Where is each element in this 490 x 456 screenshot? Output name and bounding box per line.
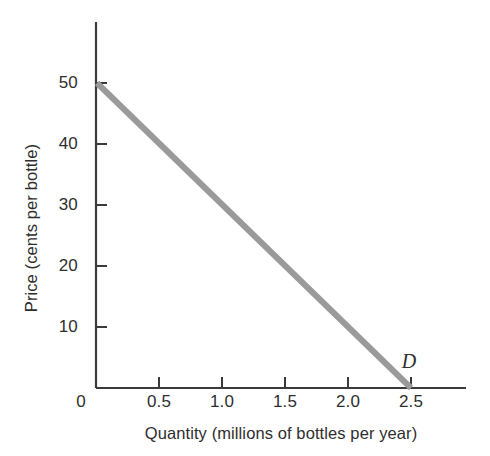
y-tick-label-10: 10 bbox=[40, 317, 78, 337]
x-tick-label-1p0: 1.0 bbox=[210, 392, 234, 412]
origin-label-0: 0 bbox=[76, 392, 86, 412]
y-tick-label-50: 50 bbox=[40, 73, 78, 93]
demand-curve-label: D bbox=[402, 350, 416, 373]
demand-curve-line bbox=[97, 83, 411, 388]
x-tick-label-1p5: 1.5 bbox=[273, 392, 297, 412]
x-axis-ticks bbox=[159, 377, 411, 388]
x-tick-label-2p0: 2.0 bbox=[336, 392, 360, 412]
demand-curve-chart: 50 40 30 20 10 0 0.5 1.0 1.5 2.0 2.5 Pri… bbox=[0, 0, 490, 456]
x-tick-label-0p5: 0.5 bbox=[147, 392, 171, 412]
x-axis-title: Quantity (millions of bottles per year) bbox=[145, 424, 418, 443]
y-tick-label-30: 30 bbox=[40, 195, 78, 215]
x-tick-label-2p5: 2.5 bbox=[399, 392, 423, 412]
y-tick-label-40: 40 bbox=[40, 134, 78, 154]
plot-area bbox=[0, 0, 490, 456]
y-tick-label-20: 20 bbox=[40, 256, 78, 276]
y-axis-title: Price (cents per bottle) bbox=[22, 144, 41, 312]
y-axis-ticks bbox=[96, 83, 107, 327]
